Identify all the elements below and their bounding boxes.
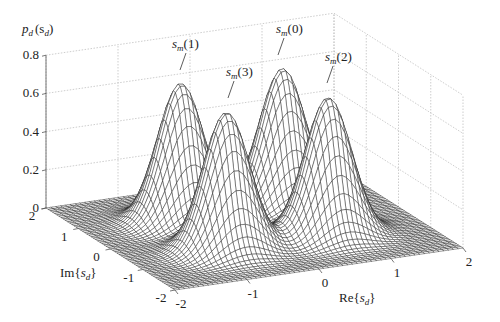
svg-text:0.6: 0.6 [23, 85, 40, 100]
im-axis-label: Im{sd} [60, 265, 97, 282]
annotation-sm2: sm(2) [325, 49, 352, 83]
svg-text:0: 0 [93, 249, 100, 264]
svg-text:sm(0): sm(0) [276, 21, 303, 38]
svg-text:sm(1): sm(1) [172, 36, 199, 53]
z-axis-label: pd(sd) [21, 21, 53, 38]
annotation-sm0: sm(0) [276, 21, 303, 55]
surface-mesh [46, 69, 463, 290]
svg-text:-2: -2 [176, 296, 187, 311]
svg-text:1: 1 [61, 229, 68, 244]
svg-text:2: 2 [29, 208, 36, 223]
svg-text:0.2: 0.2 [23, 162, 39, 177]
svg-text:0.8: 0.8 [23, 47, 39, 62]
plot-canvas: 00.20.40.60.8-2-1012-2-1012 pd(sd) Im{sd… [0, 0, 500, 322]
svg-text:2: 2 [466, 254, 473, 269]
surface-plot: 00.20.40.60.8-2-1012-2-1012 pd(sd) Im{sd… [0, 0, 500, 322]
svg-text:0.4: 0.4 [23, 124, 40, 139]
svg-text:1: 1 [394, 265, 401, 280]
svg-text:sm(3): sm(3) [226, 64, 253, 81]
annotation-sm1: sm(1) [172, 36, 199, 70]
svg-text:-1: -1 [248, 286, 259, 301]
svg-text:-1: -1 [123, 270, 134, 285]
annotation-sm3: sm(3) [226, 64, 253, 98]
svg-text:-2: -2 [156, 290, 167, 305]
svg-text:sm(2): sm(2) [325, 49, 352, 66]
re-axis-label: Re{sd} [339, 290, 376, 307]
svg-text:0: 0 [322, 275, 329, 290]
